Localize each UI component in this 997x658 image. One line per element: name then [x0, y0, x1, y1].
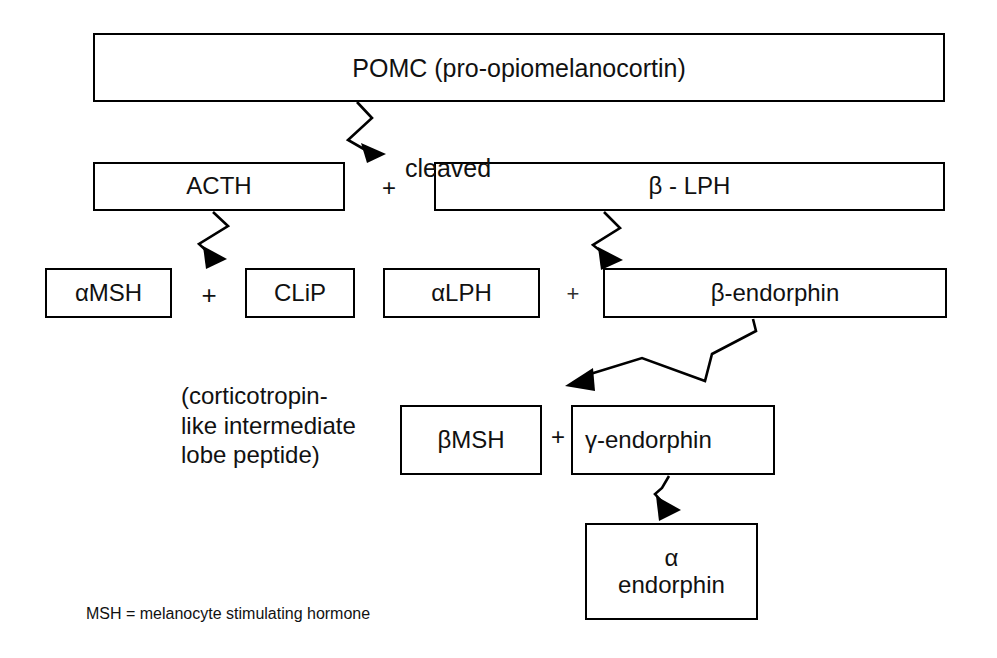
node-beta-lph[interactable]: β - LPH [434, 162, 945, 211]
node-clip-label: CLiP [268, 280, 332, 307]
node-acth-label: ACTH [180, 173, 257, 200]
node-gamma-endorphin-label: γ-endorphin [573, 427, 718, 454]
node-alpha-msh-label: αMSH [69, 280, 148, 307]
operator-plus-alph-bendorphin: + [558, 283, 588, 305]
operator-plus-acth-betalph: + [374, 176, 404, 200]
node-clip[interactable]: CLiP [245, 268, 355, 318]
operator-plus-bmsh-gendorphin: + [545, 425, 571, 449]
node-beta-endorphin-label: β-endorphin [705, 280, 846, 307]
operator-plus-amsh-clip: + [194, 282, 224, 308]
diagram-canvas: POMC (pro-opiomelanocortin) ACTH + β - L… [0, 0, 997, 658]
arrow-pomc-to-cleavage [348, 102, 386, 163]
node-beta-lph-label: β - LPH [643, 173, 737, 200]
node-pomc[interactable]: POMC (pro-opiomelanocortin) [93, 33, 945, 102]
node-beta-msh-label: βMSH [431, 427, 510, 454]
node-alpha-endorphin[interactable]: α endorphin [585, 523, 758, 620]
node-alpha-lph[interactable]: αLPH [383, 268, 540, 318]
arrow-betaendorphin-to-products [565, 319, 756, 391]
node-beta-endorphin[interactable]: β-endorphin [603, 268, 947, 318]
annotation-clip-expansion: (corticotropin- like intermediate lobe p… [181, 352, 356, 469]
node-gamma-endorphin[interactable]: γ-endorphin [571, 405, 775, 475]
node-alpha-endorphin-label: α endorphin [612, 545, 731, 599]
annotation-cleaved: cleaved [405, 122, 491, 183]
node-pomc-label: POMC (pro-opiomelanocortin) [346, 54, 691, 82]
node-acth[interactable]: ACTH [93, 162, 345, 211]
node-alpha-msh[interactable]: αMSH [45, 268, 172, 318]
arrow-gammaendorphin-to-alphaendorphin [655, 476, 681, 521]
arrow-betalph-to-products [593, 212, 623, 270]
annotation-msh-legend: MSH = melanocyte stimulating hormone [86, 584, 370, 623]
node-beta-msh[interactable]: βMSH [400, 405, 542, 475]
arrow-acth-to-products [199, 212, 228, 269]
node-alpha-lph-label: αLPH [425, 280, 498, 307]
